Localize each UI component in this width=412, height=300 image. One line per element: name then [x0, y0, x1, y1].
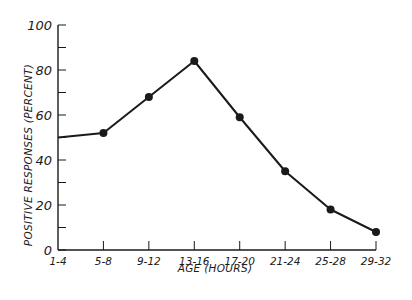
y-tick-label: 60	[35, 108, 52, 123]
axes	[58, 25, 376, 250]
data-point-marker	[145, 93, 153, 101]
data-point-marker	[281, 167, 289, 175]
line-chart: 020406080100 1-45-89-1213-1617-2021-2425…	[0, 0, 412, 300]
data-point-marker	[190, 57, 198, 65]
data-series	[58, 57, 380, 236]
x-tick-label: 29-32	[361, 255, 392, 267]
data-point-marker	[372, 228, 380, 236]
x-tick-label: 21-24	[270, 255, 301, 267]
data-point-marker	[327, 206, 335, 214]
data-point-marker	[99, 129, 107, 137]
x-tick-label: 5-8	[95, 255, 112, 267]
x-axis-title: AGE (HOURS)	[177, 262, 253, 274]
x-tick-label: 9-12	[137, 255, 161, 267]
y-tick-label: 100	[27, 18, 52, 33]
y-tick-label: 40	[35, 153, 52, 168]
y-axis-title: POSITIVE RESPONSES (PERCENT)	[22, 64, 34, 246]
data-point-marker	[236, 113, 244, 121]
y-tick-label: 20	[35, 198, 52, 213]
x-tick-label: 25-28	[315, 255, 346, 267]
y-tick-label: 80	[35, 63, 52, 78]
x-tick-label: 1-4	[49, 255, 66, 267]
